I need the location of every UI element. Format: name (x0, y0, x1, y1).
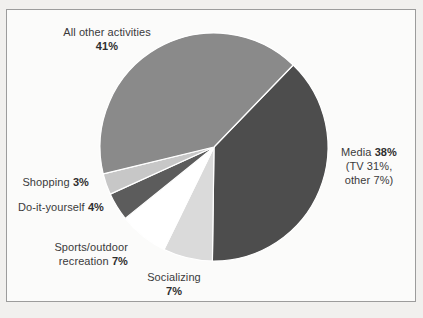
label-media-sub2: other 7%) (317, 173, 421, 187)
label-media-sub1: (TV 31%, (317, 159, 421, 173)
label-sports-outdoor-recreation: Sports/outdoor recreation 7% (0, 240, 128, 268)
label-all-other-activities: All other activities 41% (42, 25, 172, 53)
label-shopping: Shopping 3% (0, 175, 89, 189)
scanned-figure: All other activities 41% Media 38% (TV 3… (0, 0, 423, 318)
label-socializing-text: Socializing (114, 270, 234, 284)
label-do-it-yourself: Do-it-yourself 4% (0, 200, 104, 214)
label-all-other-activities-pct: 41% (42, 39, 172, 53)
label-media-text: Media 38% (317, 145, 421, 159)
label-sports-line2: recreation 7% (0, 254, 128, 268)
label-socializing-pct: 7% (114, 284, 234, 298)
label-socializing: Socializing 7% (114, 270, 234, 298)
label-sports-line1: Sports/outdoor (0, 240, 128, 254)
label-media: Media 38% (TV 31%, other 7%) (317, 145, 421, 187)
label-all-other-activities-text: All other activities (42, 25, 172, 39)
